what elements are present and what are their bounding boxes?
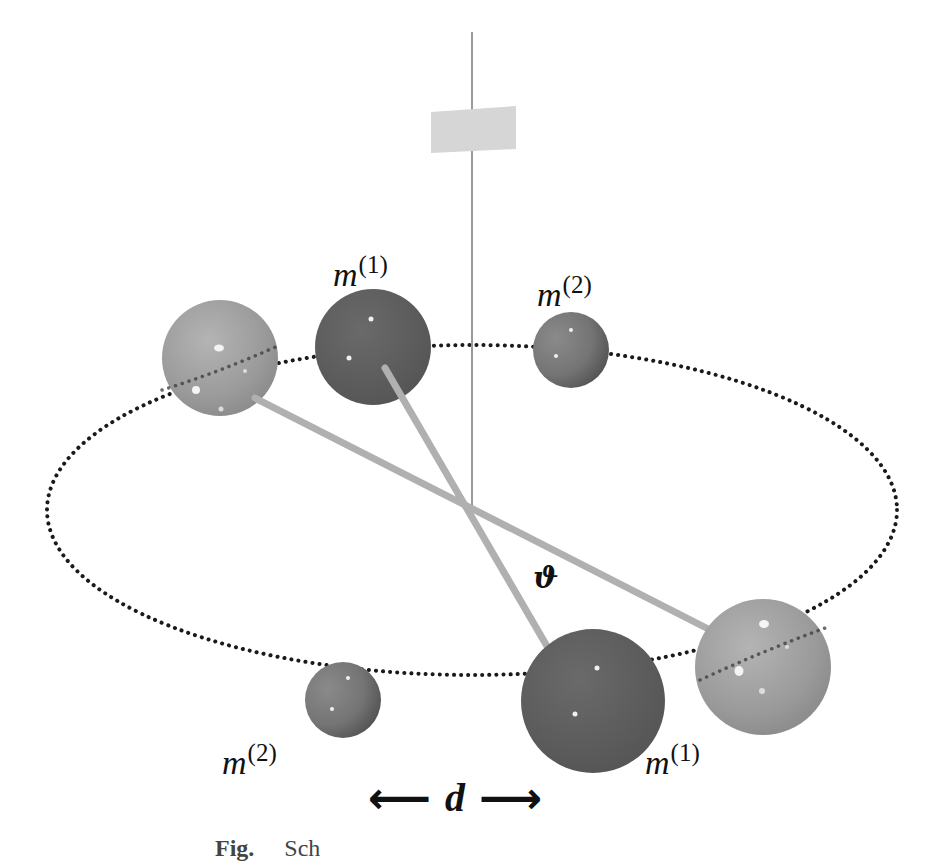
- caption-prefix: Fig.: [215, 835, 254, 861]
- arrow-right-icon: ⟶: [479, 776, 542, 820]
- label-base: m: [537, 276, 562, 313]
- label-base: m: [645, 744, 670, 781]
- label-m2-bottom: m(2): [222, 740, 277, 780]
- figure-caption: Fig. Sch: [215, 835, 320, 862]
- label-theta-angle: ϑ: [533, 560, 558, 595]
- arrow-left-icon: ⟵: [368, 776, 431, 820]
- distance-indicator: ⟵ d ⟶: [368, 774, 542, 821]
- sphere-m1-top: [315, 289, 431, 405]
- label-base: m: [222, 744, 247, 781]
- label-m1-top: m(1): [333, 252, 388, 292]
- sphere-light-bottom: [695, 599, 831, 735]
- bar-light-pair: [255, 398, 722, 636]
- label-superscript: (2): [248, 739, 277, 766]
- caption-text: Sch: [284, 835, 320, 861]
- label-distance-d: d: [445, 774, 465, 821]
- label-m1-bottom: m(1): [645, 740, 700, 780]
- label-superscript: (1): [359, 251, 388, 278]
- sphere-m2-bottom: [305, 662, 381, 738]
- label-superscript: (1): [671, 739, 700, 766]
- sphere-m1-bottom: [521, 629, 665, 773]
- mirror: [431, 106, 516, 153]
- label-superscript: (2): [563, 271, 592, 298]
- bar-dark-pair: [385, 368, 555, 660]
- label-m2-top: m(2): [537, 272, 592, 312]
- label-base: m: [333, 256, 358, 293]
- sphere-m2-top: [533, 312, 609, 388]
